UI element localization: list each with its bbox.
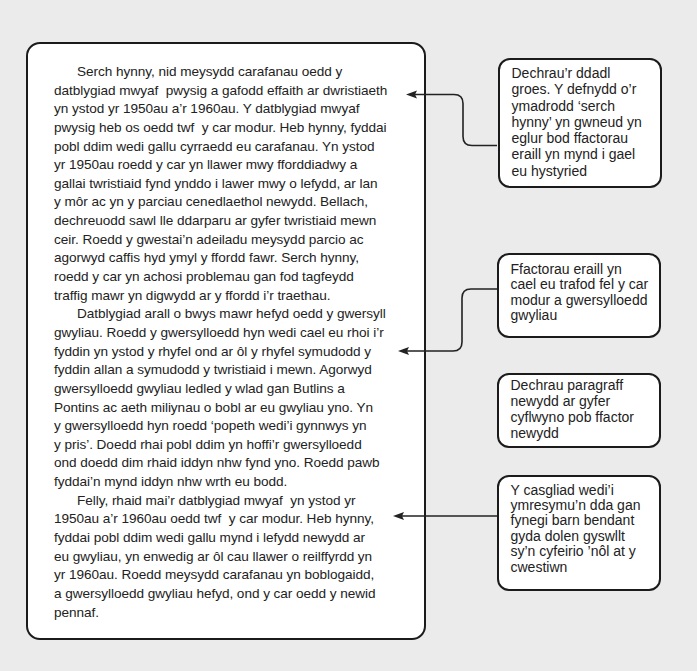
text-line: yr 1950au roedd y car yn llawer mwy ffor… <box>54 156 387 175</box>
text-line: dechreuodd sawl lle ddarparu ar gyfer tw… <box>54 212 387 231</box>
callout-counter-argument: Dechrau’r ddadl groes. Y defnydd o’r yma… <box>498 58 662 188</box>
connector-1 <box>414 95 497 146</box>
text-line: Serch hynny, nid meysydd carafanau oedd … <box>54 63 387 82</box>
text-line: yr 1960au. Roedd meysydd carafanau yn bo… <box>54 566 387 585</box>
callout-line: gyda dolen gyswllt <box>511 529 654 544</box>
callout-line: sy’n cyfeirio ’nôl at y <box>511 544 654 559</box>
text-line: ceir. Roedd y gwestai’n adeiladu meysydd… <box>54 231 387 250</box>
callout-line: eu hystyried <box>512 163 655 179</box>
text-line: gwyliau. Roedd y gwersylloedd hyn wedi c… <box>54 324 387 343</box>
callout-other-factors: Ffactorau eraill yn cael eu trafod fel y… <box>497 253 661 338</box>
callout-line: fynegi barn bendant <box>511 513 654 528</box>
text-line: ond doedd dim rhaid iddyn nhw fynd yno. … <box>54 454 387 473</box>
callout-line: newydd <box>511 425 654 441</box>
callout-line: ymresymu’n dda gan <box>511 498 654 513</box>
text-line: Datblygiad arall o bwys mawr hefyd oedd … <box>54 305 387 324</box>
callout-new-paragraph: Dechrau paragraff newydd ar gyfer cyflwy… <box>497 373 661 448</box>
text-line: 1950au a’r 1960au oedd twf y car modur. … <box>54 510 387 529</box>
callout-line: modur a gwersylloedd <box>511 293 654 308</box>
callout-line: eraill yn mynd i gael <box>512 146 655 162</box>
text-line: a gwersylloedd gwyliau hefyd, ond y car … <box>54 585 387 604</box>
callout-line: Dechrau’r ddadl <box>512 65 655 81</box>
callout-line: newydd ar gyfer <box>511 393 654 409</box>
paragraph-2: Datblygiad arall o bwys mawr hefyd oedd … <box>54 305 387 491</box>
text-line: agorwyd caffis hyd ymyl y ffordd fawr. S… <box>54 249 387 268</box>
essay-text: Serch hynny, nid meysydd carafanau oedd … <box>54 63 387 622</box>
text-line: y gwersylloedd hyn roedd ‘popeth wedi’i … <box>54 417 387 436</box>
callout-line: groes. Y defnydd o’r <box>512 81 655 97</box>
text-line: fyddai’n mynd iddyn nhw wrth eu bodd. <box>54 473 387 492</box>
text-line: Pontins ac aeth miliynau o bobl ar eu gw… <box>54 399 387 418</box>
text-line: traffig mawr yn digwydd ar y ffordd i’r … <box>54 287 387 306</box>
callout-line: Dechrau paragraff <box>511 377 654 393</box>
callout-line: hynny’ yn gwneud yn <box>512 114 655 130</box>
text-line: Felly, rhaid mai’r datblygiad mwyaf yn y… <box>54 492 387 511</box>
callout-line: eglur bod ffactorau <box>512 130 655 146</box>
text-line: pwysig heb os oedd twf y car modur. Heb … <box>54 119 387 138</box>
callout-line: Ffactorau eraill yn <box>511 262 654 277</box>
callout-line: gwyliau <box>511 308 654 323</box>
text-line: datblygiad mwyaf pwysig a gafodd effaith… <box>54 82 387 101</box>
text-line: yn ystod yr 1950au a’r 1960au. Y datblyg… <box>54 100 387 119</box>
text-line: y môr ac yn y parciau cenedlaethol newyd… <box>54 193 387 212</box>
text-line: gwersylloedd gwyliau ledled y wlad gan B… <box>54 380 387 399</box>
callout-line: cwestiwn <box>511 560 654 575</box>
text-line: fyddin allan a symudodd y twristiaid i m… <box>54 361 387 380</box>
text-line: pobl ddim wedi gallu cyrraedd eu carafan… <box>54 138 387 157</box>
callout-conclusion: Y casgliad wedi’i ymresymu’n dda gan fyn… <box>497 475 661 591</box>
paragraph-1: Serch hynny, nid meysydd carafanau oedd … <box>54 63 387 305</box>
callout-line: cael eu trafod fel y car <box>511 277 654 292</box>
text-line: pennaf. <box>54 604 387 623</box>
text-line: gallai twristiaid fynd ynddo i lawer mwy… <box>54 175 387 194</box>
text-line: fyddin yn ystod y rhyfel ond ar ôl y rhy… <box>54 343 387 362</box>
text-line: y pris’. Doedd rhai pobl ddim yn hoffi’r… <box>54 436 387 455</box>
callout-line: Y casgliad wedi’i <box>511 483 654 498</box>
paragraph-3: Felly, rhaid mai’r datblygiad mwyaf yn y… <box>54 492 387 622</box>
text-line: fyddai pobl ddim wedi gallu mynd i lefyd… <box>54 529 387 548</box>
callout-line: cyflwyno pob ffactor <box>511 409 654 425</box>
text-line: roedd y car yn achosi problemau gan fod … <box>54 268 387 287</box>
callout-line: ymadrodd ‘serch <box>512 98 655 114</box>
text-line: eu gwyliau, yn enwedig ar ôl cau llawer … <box>54 548 387 567</box>
